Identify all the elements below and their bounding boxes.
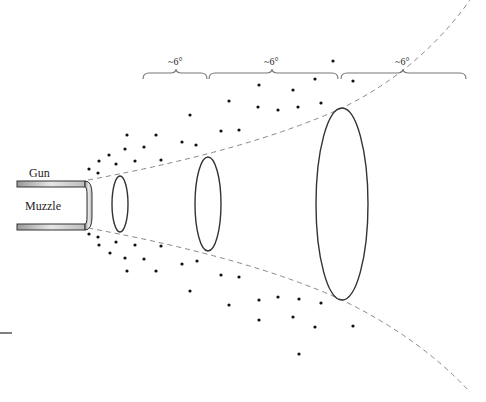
muzzle-blast-diagram: Gun Muzzle ~6° ~6° ~6° bbox=[0, 0, 486, 402]
blast-ellipse-1 bbox=[112, 176, 128, 232]
cone-top-dashed bbox=[88, 0, 470, 180]
cone-bottom-dashed bbox=[88, 228, 470, 392]
blast-ellipse-3 bbox=[316, 108, 368, 300]
gun-label: Gun bbox=[29, 166, 50, 180]
angle-label-3: ~6° bbox=[395, 56, 409, 67]
blast-ellipse-2 bbox=[195, 157, 221, 251]
angle-label-1: ~6° bbox=[168, 56, 182, 67]
muzzle-label: Muzzle bbox=[25, 199, 61, 213]
angle-brackets bbox=[143, 69, 466, 79]
angle-label-2: ~6° bbox=[264, 56, 278, 67]
